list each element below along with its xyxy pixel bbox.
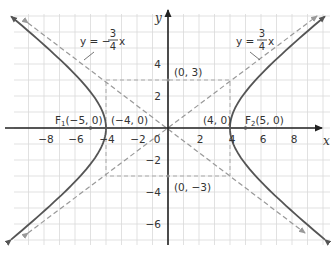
y-tick-label: 4 <box>154 58 161 70</box>
svg-text:4: 4 <box>110 41 116 52</box>
x-axis-label: x <box>323 134 330 148</box>
asymptote-left-label: y = − 3 4 x <box>80 28 125 60</box>
focus-2-point <box>244 126 248 130</box>
svg-text:y =: y = <box>236 35 254 47</box>
origin-label: 0 <box>154 133 161 145</box>
hyperbola-graph: −8 −6 −4 −2 2 4 6 8 0 4 2 −2 −4 −6 x y F… <box>0 0 334 254</box>
asymptote-right-pointer <box>250 52 260 60</box>
covertex-top-label: (0, 3) <box>174 66 202 78</box>
x-tick-label: −4 <box>99 133 115 145</box>
svg-text:x: x <box>268 35 274 47</box>
svg-text:3: 3 <box>110 28 116 39</box>
svg-text:4: 4 <box>259 41 265 52</box>
vertex-left-label: (−4, 0) <box>111 114 148 126</box>
covertex-bottom-label: (0, −3) <box>174 181 211 193</box>
focus-1-point <box>89 126 93 130</box>
y-tick-label: −4 <box>146 186 162 198</box>
x-tick-label: 2 <box>197 133 204 145</box>
y-tick-label: 2 <box>154 90 161 102</box>
y-tick-label: −6 <box>146 218 162 230</box>
asymptote-left-pointer <box>84 52 94 60</box>
asymptote-right-label: y = 3 4 x <box>236 28 274 60</box>
focus-2-label: F2(5, 0) <box>245 114 284 128</box>
x-tick-label: 8 <box>291 133 298 145</box>
covertex-top-point <box>166 78 169 81</box>
x-tick-label: 4 <box>229 133 236 145</box>
x-tick-label: 6 <box>260 133 267 145</box>
x-tick-label: −6 <box>68 133 84 145</box>
svg-text:y = −: y = − <box>80 35 111 47</box>
x-tick-label: −8 <box>38 133 53 145</box>
y-axis-label: y <box>154 11 162 25</box>
svg-text:x: x <box>119 35 125 47</box>
vertex-right-label: (4, 0) <box>203 114 231 126</box>
svg-text:3: 3 <box>259 28 265 39</box>
covertex-bottom-point <box>166 174 169 177</box>
y-tick-label: −2 <box>146 154 161 166</box>
x-tick-label: −2 <box>130 133 145 145</box>
focus-1-label: F1(−5, 0) <box>55 114 103 128</box>
